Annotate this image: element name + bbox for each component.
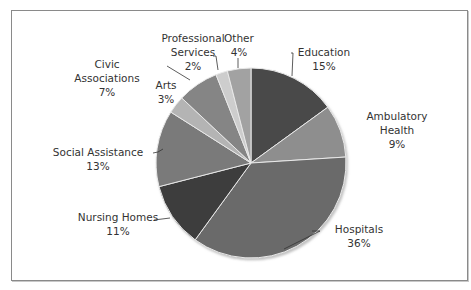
label-professional-services: Professional Services 2% [161, 31, 224, 73]
label-education: Education 15% [298, 45, 350, 73]
label-social-assistance: Social Assistance 13% [53, 145, 143, 173]
label-hospitals-pct: 36% [335, 236, 383, 250]
label-civic-pct: 7% [74, 85, 139, 99]
label-professional-line1: Professional [161, 31, 224, 45]
label-other-pct: 4% [224, 45, 254, 59]
label-professional-pct: 2% [161, 59, 224, 73]
label-civic-line2: Associations [74, 71, 139, 85]
label-civic-associations: Civic Associations 7% [74, 57, 139, 99]
label-other: Other 4% [224, 31, 254, 59]
label-arts-name: Arts [155, 78, 176, 92]
label-hospitals: Hospitals 36% [335, 222, 383, 250]
label-social-name: Social Assistance [53, 145, 143, 159]
label-ambulatory-health: Ambulatory Health 9% [366, 109, 427, 151]
leader-education [291, 53, 293, 76]
label-ambulatory-pct: 9% [366, 137, 427, 151]
label-social-pct: 13% [53, 159, 143, 173]
label-nursing-name: Nursing Homes [78, 210, 158, 224]
label-civic-line1: Civic [74, 57, 139, 71]
label-nursing-homes: Nursing Homes 11% [78, 210, 158, 238]
label-ambulatory-line1: Ambulatory [366, 109, 427, 123]
label-hospitals-name: Hospitals [335, 222, 383, 236]
label-arts-pct: 3% [155, 92, 176, 106]
label-nursing-pct: 11% [78, 224, 158, 238]
label-arts: Arts 3% [155, 78, 176, 106]
label-education-pct: 15% [298, 59, 350, 73]
label-professional-line2: Services [161, 45, 224, 59]
label-other-name: Other [224, 31, 254, 45]
label-ambulatory-line2: Health [366, 123, 427, 137]
label-education-name: Education [298, 45, 350, 59]
